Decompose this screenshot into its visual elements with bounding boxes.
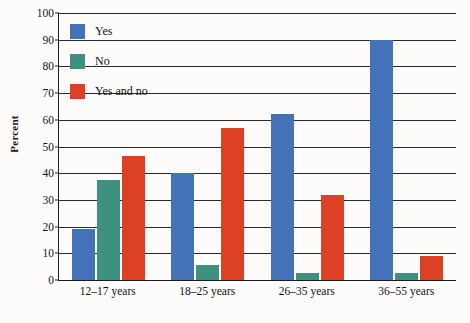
legend-color-swatch <box>70 54 85 69</box>
bar <box>97 180 120 280</box>
legend-item-label: No <box>95 54 110 69</box>
legend-color-swatch <box>70 24 85 39</box>
y-axis-tick-label: 80 <box>43 60 55 72</box>
legend-item: Yes and no <box>70 79 148 104</box>
y-axis-tick-label: 20 <box>43 221 55 233</box>
bar <box>196 265 219 280</box>
y-axis-tick-label: 10 <box>43 247 55 259</box>
y-axis-tick-label: 60 <box>43 114 55 126</box>
bar-chart-figure: Percent 0102030405060708090100 12–17 yea… <box>0 0 470 323</box>
y-axis-tick-label: 40 <box>43 167 55 179</box>
bar-group <box>158 13 257 280</box>
bar-group <box>357 13 456 280</box>
y-axis-tick-label: 90 <box>43 34 55 46</box>
y-axis-tick-label: 100 <box>37 7 54 19</box>
legend-color-swatch <box>70 84 85 99</box>
x-axis-tick-label: 12–17 years <box>58 285 158 297</box>
bar <box>296 273 319 280</box>
x-axis-tick-label: 26–35 years <box>257 285 357 297</box>
y-axis-tick-label: 70 <box>43 87 55 99</box>
bar <box>122 156 145 280</box>
x-axis-tick-labels: 12–17 years18–25 years26–35 years36–55 y… <box>58 285 456 297</box>
bar <box>395 273 418 280</box>
bar <box>370 40 393 280</box>
legend-item-label: Yes <box>95 24 112 39</box>
legend-item: Yes <box>70 19 148 44</box>
x-axis-tick-label: 36–55 years <box>357 285 457 297</box>
y-axis-tick-label: 50 <box>43 141 55 153</box>
bar <box>271 114 294 280</box>
bar <box>321 195 344 280</box>
chart-legend: YesNoYes and no <box>70 19 148 109</box>
bar <box>420 256 443 280</box>
y-axis-tick-label: 0 <box>48 274 54 286</box>
y-axis-title: Percent <box>8 94 20 174</box>
legend-item-label: Yes and no <box>95 84 148 99</box>
bar <box>171 173 194 280</box>
legend-item: No <box>70 49 148 74</box>
bar-group <box>258 13 357 280</box>
y-axis-tick-label: 30 <box>43 194 55 206</box>
bar <box>221 128 244 280</box>
bar <box>72 229 95 280</box>
x-axis-tick-label: 18–25 years <box>158 285 258 297</box>
